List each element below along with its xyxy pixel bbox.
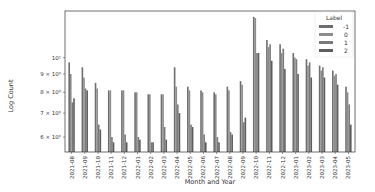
y-tick-label: 6 × 10⁰	[40, 134, 62, 140]
x-axis-label: Month and Year	[185, 178, 236, 186]
bar-2022-02-label-2	[152, 142, 154, 152]
x-tick-label: 2022-05	[187, 156, 193, 179]
x-tick-label: 2022-09	[240, 156, 246, 179]
x-tick-label: 2022-07	[214, 156, 220, 179]
bar-2021-09-label--1	[82, 67, 84, 152]
bar-2023-03-label-2	[324, 78, 326, 152]
bar-2023-04-label-0	[334, 76, 336, 152]
bar-2022-08-label-0	[228, 90, 230, 152]
x-tick-label: 2022-08	[227, 156, 233, 179]
bar-2022-03-label--1	[161, 94, 163, 152]
bar-2023-05-label-1	[348, 104, 350, 152]
bar-2022-06-label--1	[200, 90, 202, 152]
legend-label: 0	[344, 31, 348, 38]
bar-2022-10-label-0	[255, 18, 257, 152]
bar-2021-12-label-2	[126, 142, 128, 152]
bar-2021-09-label-2	[86, 90, 88, 152]
bar-2022-07-label-2	[218, 142, 220, 152]
bar-2022-03-label-1	[164, 127, 166, 152]
x-tick-label: 2023-03	[319, 156, 325, 179]
bar-2021-08-label-2	[73, 98, 75, 152]
bar-2021-12-label--1	[121, 90, 123, 152]
x-tick-label: 2022-01	[135, 156, 141, 179]
y-tick-label: 9 × 10⁰	[40, 71, 62, 77]
bar-2022-02-label-0	[149, 94, 151, 152]
y-axis-label: Log Count	[7, 79, 15, 112]
bar-2022-04-label--1	[174, 67, 176, 152]
bar-2022-08-label-1	[230, 132, 232, 152]
legend-swatch	[319, 49, 333, 52]
bar-2022-10-label--1	[253, 17, 255, 152]
x-tick-label: 2023-02	[306, 156, 312, 179]
bar-2022-01-label-1	[138, 137, 140, 152]
bar-2021-11-label-0	[110, 90, 112, 152]
bar-2022-12-label-2	[284, 69, 286, 152]
legend: Label -1012	[315, 12, 353, 57]
legend-label: 2	[344, 47, 348, 54]
bar-2022-02-label-1	[151, 142, 153, 152]
bar-2022-04-label-1	[177, 104, 179, 152]
bars-group	[68, 17, 351, 152]
legend-title: Label	[326, 14, 343, 21]
bar-2021-08-label-0	[70, 74, 72, 152]
bar-2022-12-label-0	[281, 53, 283, 152]
bar-2022-02-label--1	[147, 94, 149, 152]
bar-2023-02-label-0	[307, 66, 309, 152]
bar-2022-03-label-2	[165, 140, 167, 152]
bar-2022-06-label-0	[202, 92, 204, 152]
bar-2022-11-label--1	[266, 40, 268, 152]
x-tick-label: 2022-03	[161, 156, 167, 179]
bar-2022-01-label--1	[134, 92, 136, 152]
bar-2022-01-label-2	[139, 140, 141, 152]
bar-2021-12-label-1	[124, 134, 126, 152]
bar-2022-07-label-0	[215, 94, 217, 152]
bar-2023-05-label--1	[345, 87, 347, 152]
bar-2023-03-label--1	[319, 66, 321, 152]
x-tick-label: 2022-04	[174, 156, 180, 179]
bar-2022-08-label--1	[227, 87, 229, 152]
bar-2023-03-label-1	[322, 67, 324, 152]
bar-2021-10-label--1	[95, 83, 97, 152]
bar-2022-09-label-1	[243, 122, 245, 152]
bar-2023-02-label-2	[310, 78, 312, 152]
x-tick-label: 2022-02	[148, 156, 154, 179]
bar-2022-03-label-0	[162, 94, 164, 152]
y-axis: 6 × 10⁰7 × 10⁰8 × 10⁰9 × 10⁰10¹	[40, 55, 65, 140]
x-tick-label: 2021-09	[82, 156, 88, 179]
bar-2023-04-label-2	[337, 85, 339, 152]
bar-2022-07-label-1	[217, 137, 219, 152]
x-tick-label: 2021-12	[121, 156, 127, 179]
bar-2023-04-label--1	[332, 71, 334, 152]
bar-2021-11-label-2	[113, 142, 115, 152]
x-tick-label: 2022-10	[253, 156, 259, 179]
bar-2022-01-label-0	[136, 92, 138, 152]
legend-swatch	[319, 33, 333, 36]
x-tick-label: 2022-06	[200, 156, 206, 179]
bar-2022-12-label-1	[283, 49, 285, 152]
bar-2021-10-label-1	[98, 125, 100, 152]
bar-2022-08-label-2	[231, 134, 233, 152]
bar-2021-10-label-2	[100, 129, 102, 152]
bar-2023-03-label-0	[320, 71, 322, 152]
bar-2022-05-label-2	[192, 127, 194, 152]
legend-label: -1	[343, 23, 349, 30]
bar-2023-01-label--1	[292, 53, 294, 152]
bar-2023-02-label--1	[306, 59, 308, 152]
bar-2021-08-label--1	[68, 62, 70, 152]
bar-2022-06-label-1	[203, 134, 205, 152]
bar-2022-11-label-2	[271, 61, 273, 152]
x-tick-label: 2023-01	[293, 156, 299, 179]
x-tick-label: 2023-04	[332, 156, 338, 179]
bar-2022-10-label-2	[258, 53, 260, 152]
bar-2021-12-label-0	[123, 90, 125, 152]
x-tick-label: 2021-10	[95, 156, 101, 179]
bar-2023-05-label-0	[347, 92, 349, 152]
bar-2022-09-label-0	[241, 85, 243, 152]
bar-2022-10-label-1	[256, 53, 258, 152]
bar-2021-09-label-0	[83, 78, 85, 152]
legend-swatch	[319, 25, 333, 28]
y-tick-label: 10¹	[52, 55, 61, 61]
x-tick-label: 2022-11	[266, 156, 272, 179]
bar-2022-05-label-1	[190, 125, 192, 152]
bar-2021-09-label-1	[85, 88, 87, 152]
